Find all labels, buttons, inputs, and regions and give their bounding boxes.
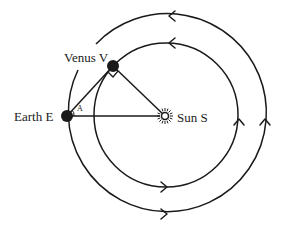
line-venus-sun <box>113 66 165 116</box>
earth-label: Earth E <box>14 110 53 123</box>
arrow-outer-top-icon <box>169 11 175 21</box>
line-earth-venus <box>67 66 113 116</box>
earth-planet <box>61 110 73 122</box>
sun-icon <box>157 108 173 124</box>
arrow-outer-bottom-icon <box>161 209 167 219</box>
venus-planet <box>107 60 119 72</box>
sun-label: Sun S <box>177 111 208 124</box>
arrow-inner-right-icon <box>234 119 244 125</box>
angle-label: A <box>77 105 83 113</box>
venus-label: Venus V <box>64 51 108 64</box>
